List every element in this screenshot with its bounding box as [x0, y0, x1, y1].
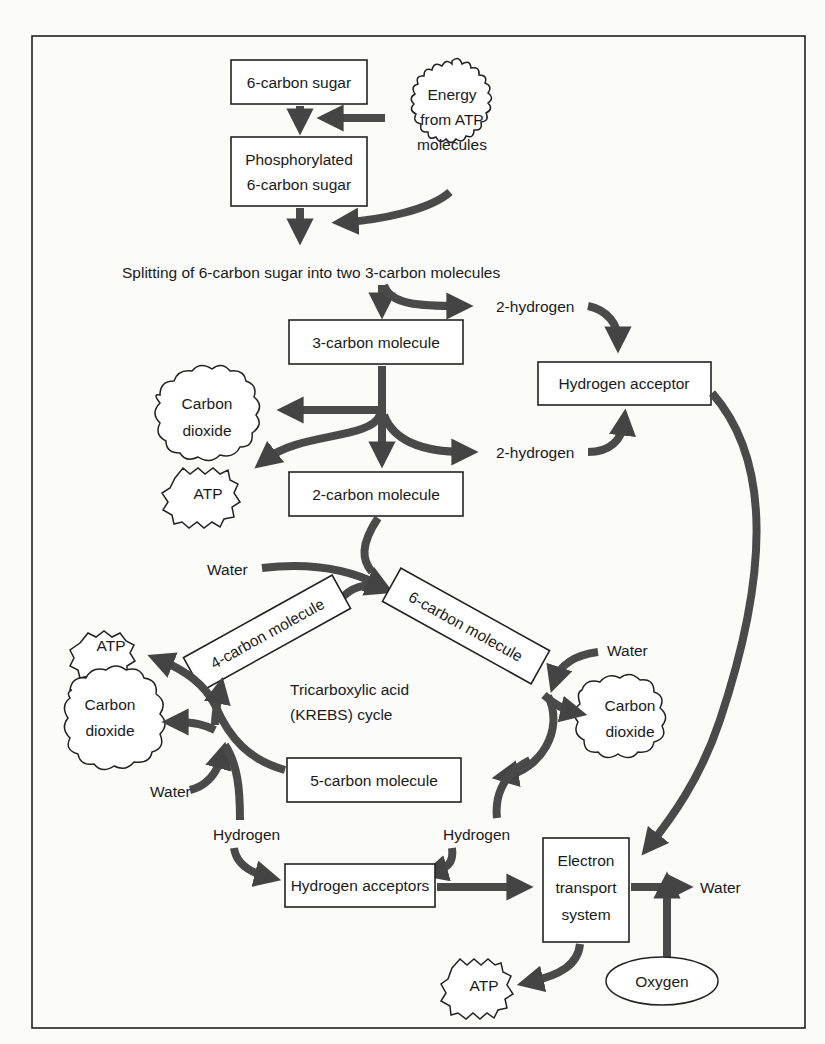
svg-text:transport: transport	[555, 879, 617, 896]
label-water-left: Water	[150, 783, 191, 800]
label-krebs-line2: (KREBS) cycle	[290, 706, 393, 723]
cloud-icon	[64, 666, 165, 770]
label-krebs-line1: Tricarboxylic acid	[290, 681, 409, 698]
arrow-water-left-in	[190, 755, 222, 790]
label-hydrogen-left: Hydrogen	[213, 826, 280, 843]
svg-text:6-carbon molecule: 6-carbon molecule	[406, 588, 526, 665]
svg-text:3-carbon molecule: 3-carbon molecule	[312, 334, 440, 351]
label-6-carbon-sugar: 6-carbon sugar	[247, 74, 351, 91]
node-atp-top: ATP	[162, 468, 240, 528]
cloud-icon	[574, 674, 665, 757]
node-carbon-dioxide-right: Carbon dioxide	[574, 674, 665, 757]
svg-text:dioxide: dioxide	[85, 722, 134, 739]
svg-text:2-carbon molecule: 2-carbon molecule	[312, 486, 440, 503]
node-2-carbon-molecule: 2-carbon molecule	[289, 472, 463, 516]
node-6-carbon-sugar: 6-carbon sugar	[231, 60, 367, 104]
svg-text:molecules: molecules	[417, 136, 487, 153]
arrow-to-co2-left	[175, 722, 215, 730]
node-6-carbon-molecule: 6-carbon molecule	[382, 568, 549, 684]
node-oxygen: Oxygen	[606, 957, 718, 1005]
arrow-hydrogen-left-to-acceptors	[234, 848, 268, 877]
arrow-to-2hydrogen-mid	[384, 415, 465, 452]
svg-text:system: system	[561, 906, 610, 923]
label-hydrogen-right: Hydrogen	[443, 826, 510, 843]
svg-text:dioxide: dioxide	[182, 422, 231, 439]
arrow-acceptor-to-ets	[650, 393, 757, 845]
label-splitting: Splitting of 6-carbon sugar into two 3-c…	[122, 264, 500, 281]
svg-text:Carbon: Carbon	[605, 697, 656, 714]
svg-text:Electron: Electron	[558, 852, 615, 869]
arrow-split-to-2hydrogen	[384, 285, 460, 306]
svg-text:dioxide: dioxide	[605, 723, 654, 740]
svg-text:Energy: Energy	[427, 86, 476, 103]
node-hydrogen-acceptors: Hydrogen acceptors	[285, 864, 435, 907]
svg-text:Hydrogen acceptor: Hydrogen acceptor	[559, 375, 690, 392]
svg-text:Hydrogen acceptors: Hydrogen acceptors	[291, 877, 430, 894]
label-water-right: Water	[607, 642, 648, 659]
svg-text:6-carbon sugar: 6-carbon sugar	[247, 176, 351, 193]
node-electron-transport-system: Electron transport system	[543, 838, 629, 942]
label-water-top: Water	[207, 561, 248, 578]
arrow-2carbon-down	[364, 518, 378, 572]
label-2-hydrogen-top: 2-hydrogen	[496, 298, 574, 315]
arrow-ets-to-atp	[530, 944, 580, 982]
node-carbon-dioxide-left: Carbon dioxide	[64, 666, 165, 770]
node-atp-bottom: ATP	[441, 959, 513, 1019]
arrow-hydrogen-right-to-acceptors	[434, 848, 452, 872]
svg-text:ATP: ATP	[470, 977, 499, 994]
svg-text:from ATP: from ATP	[420, 111, 483, 128]
svg-text:Oxygen: Oxygen	[635, 973, 688, 990]
arrow-4carbon-to-6carbon	[340, 586, 380, 600]
svg-text:Carbon: Carbon	[182, 395, 233, 412]
arrow-hydrogen-left-branch	[225, 745, 240, 820]
arrow-2hydrogen-mid-to-acceptor	[588, 422, 624, 452]
respiration-diagram: 6-carbon sugar Energy from ATP molecules…	[0, 0, 825, 1044]
arrow-2hydrogen-to-acceptor	[588, 306, 618, 340]
node-5-carbon-molecule: 5-carbon molecule	[287, 758, 461, 802]
label-water-out: Water	[700, 879, 741, 896]
cloud-icon	[155, 365, 260, 460]
svg-text:ATP: ATP	[97, 637, 126, 654]
arrow-water-right-to-cycle	[555, 652, 598, 680]
node-phosphorylated-sugar: Phosphorylated 6-carbon sugar	[231, 137, 367, 206]
node-3-carbon-molecule: 3-carbon molecule	[289, 320, 463, 364]
node-hydrogen-acceptor: Hydrogen acceptor	[538, 362, 711, 405]
label-2-hydrogen-mid: 2-hydrogen	[496, 444, 574, 461]
svg-text:4-carbon molecule: 4-carbon molecule	[207, 595, 327, 672]
node-energy-from-atp: Energy from ATP molecules	[411, 59, 491, 153]
node-4-carbon-molecule: 4-carbon molecule	[183, 575, 350, 691]
node-carbon-dioxide-top: Carbon dioxide	[155, 365, 260, 460]
svg-text:5-carbon molecule: 5-carbon molecule	[310, 772, 438, 789]
svg-text:ATP: ATP	[194, 485, 223, 502]
svg-text:Carbon: Carbon	[85, 696, 136, 713]
svg-text:Phosphorylated: Phosphorylated	[245, 151, 353, 168]
arrow-to-atp-top	[265, 415, 380, 460]
